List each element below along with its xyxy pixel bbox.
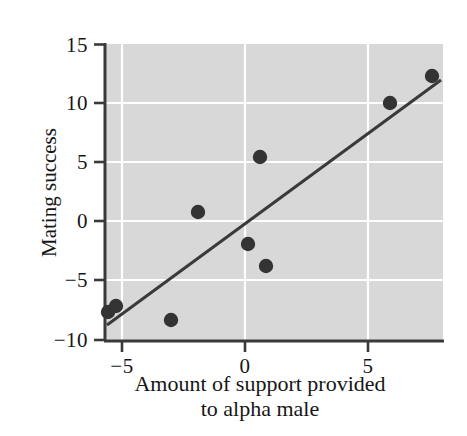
data-point	[425, 69, 439, 83]
x-axis-title: Amount of support provided to alpha male	[60, 372, 460, 421]
plot-panel	[104, 44, 443, 340]
data-point	[241, 237, 255, 251]
data-point	[109, 299, 123, 313]
data-point	[253, 150, 267, 164]
y-axis-title: Mating success	[37, 78, 62, 308]
x-axis-ticks	[122, 341, 368, 352]
x-axis-title-line1: Amount of support provided	[134, 371, 385, 396]
data-point	[383, 96, 397, 110]
y-tick-label-15: 15	[32, 33, 88, 58]
data-point	[259, 259, 273, 273]
data-point	[164, 313, 178, 327]
scatter-plot-figure: 15 10 5 0 −5 −10 −5 0 5 Mating success A…	[0, 0, 467, 436]
y-axis-ticks	[94, 45, 105, 341]
y-tick-label-minus10: −10	[32, 328, 88, 353]
x-axis-title-line2: to alpha male	[60, 397, 460, 422]
data-point	[191, 205, 205, 219]
